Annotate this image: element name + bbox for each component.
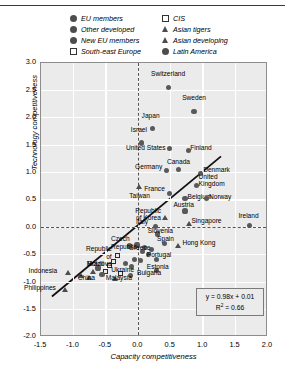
point-label-singapore: Singapore: [191, 217, 221, 224]
point-label-malaysia: Malaysia: [106, 274, 132, 281]
x-axis-tick: 1.0: [189, 341, 215, 348]
data-point-republic-of-korea: [162, 215, 168, 220]
square-marker-icon: [70, 48, 77, 55]
point-label-indonesia: Indonesia: [29, 267, 58, 274]
x-axis-tick: -0.5: [92, 341, 118, 348]
square-marker-icon: [162, 15, 169, 22]
gridline-horizontal: [41, 172, 266, 173]
r-squared: R2 = 0.66: [199, 301, 261, 312]
legend-item-label: New EU members: [81, 37, 139, 44]
point-label-canada: Canada: [167, 158, 190, 165]
x-axis-tick: -1.0: [59, 341, 85, 348]
legend-item-label: South-east Europe: [81, 48, 141, 55]
data-point-united-states: [167, 146, 172, 151]
point-label-israel: Israel: [131, 126, 147, 133]
point-label-hong-kong: Hong Kong: [182, 239, 215, 246]
x-axis-tick: -1.5: [27, 341, 53, 348]
point-label-finland: Finland: [190, 144, 212, 151]
fit-equation: y = 0.98x + 0.01: [199, 292, 261, 301]
point-label-slovenia: Slovenia: [148, 227, 173, 234]
circle-marker-icon: [70, 37, 77, 44]
point-label-united-kingdom: United Kingdom: [199, 173, 225, 188]
gridline-horizontal: [41, 282, 266, 283]
point-label-norway: Norway: [209, 193, 231, 200]
x-axis-tick: 1.5: [222, 341, 248, 348]
legend-item-asian-tigers: Asian tigers: [162, 26, 262, 33]
point-label-united-states: United States: [126, 144, 166, 151]
y-axis-tick: -2.0: [10, 332, 36, 339]
point-label-sweden: Sweden: [182, 94, 206, 101]
point-label-japan: Japan: [142, 112, 160, 119]
y-axis-tick: 2.0: [10, 113, 36, 120]
point-label-taiwan: Taiwan: [129, 192, 150, 199]
point-label-bulgaria: Bulgaria: [137, 269, 161, 276]
x-axis-label: Capacity competitiveness: [40, 352, 267, 361]
data-point-taiwan: [136, 184, 142, 189]
y-axis-tick: 3.0: [10, 58, 36, 65]
legend-item-cis: CIS: [162, 15, 262, 22]
legend-item-label: Latin America: [173, 48, 217, 55]
point-label-portugal: Portugal: [147, 251, 172, 258]
gridline-vertical: [73, 63, 74, 335]
y-axis-tick: 2.5: [10, 86, 36, 93]
data-point-canada: [176, 167, 181, 172]
legend-item-eu-members: EU members: [70, 15, 162, 22]
gridline-vertical: [105, 63, 106, 335]
legend-item-new-eu-members: New EU members: [70, 37, 162, 44]
y-axis-tick: 0.5: [10, 195, 36, 202]
gridline-vertical: [170, 63, 171, 335]
y-axis-tick: -1.5: [10, 305, 36, 312]
data-point-indonesia: [65, 270, 71, 275]
legend-item-label: CIS: [173, 15, 185, 22]
point-label-austria: Austria: [173, 201, 194, 208]
data-point-switzerland: [166, 85, 171, 90]
data-point-japan: [150, 126, 155, 131]
legend-item-label: Asian developing: [173, 37, 228, 44]
y-axis-tick: 0.0: [10, 223, 36, 230]
y-axis-tick: 1.5: [10, 141, 36, 148]
y-axis-tick: 1.0: [10, 168, 36, 175]
circle-marker-icon: [70, 26, 77, 33]
data-point-republic-of-moldova: [115, 253, 120, 258]
point-label-spain: Spain: [157, 235, 174, 242]
data-point-austria: [182, 208, 187, 213]
data-point: [138, 258, 143, 263]
gridline-horizontal: [41, 199, 266, 200]
x-axis-tick: 2.0: [254, 341, 280, 348]
point-label-germany: Germany: [135, 163, 162, 170]
legend-item-other-developed: Other developed: [70, 26, 162, 33]
chart-legend: EU membersCISOther developedAsian tigers…: [70, 13, 270, 57]
y-axis-tick: -0.5: [10, 250, 36, 257]
y-axis-label: Technology competitiveness: [30, 63, 39, 183]
point-label-china: China: [78, 274, 95, 281]
x-axis-tick: 0.0: [124, 341, 150, 348]
data-point-philippines: [62, 287, 68, 292]
tri-marker-icon: [162, 26, 169, 33]
data-point: [99, 272, 104, 277]
point-label-switzerland: Switzerland: [151, 70, 185, 77]
point-label-italy: Italy: [136, 218, 148, 225]
legend-item-latin-america: Latin America: [162, 48, 262, 55]
chart-figure: EU membersCISOther developedAsian tigers…: [0, 0, 285, 368]
tri-marker-icon: [162, 37, 169, 44]
data-point-hong-kong: [175, 243, 181, 248]
top-divider: [0, 5, 285, 6]
legend-item-asian-developing: Asian developing: [162, 37, 262, 44]
x-axis-tick: 0.5: [157, 341, 183, 348]
y-axis-tick: -1.0: [10, 278, 36, 285]
legend-item-label: Other developed: [81, 26, 134, 33]
data-point: [132, 257, 137, 262]
data-point-sweden: [191, 109, 196, 114]
gridline-horizontal: [41, 90, 266, 91]
circle-marker-icon: [162, 48, 169, 55]
point-label-ireland: Ireland: [238, 212, 258, 219]
regression-equation-box: y = 0.98x + 0.01 R2 = 0.66: [196, 288, 264, 316]
point-label-brazil: Brazil: [87, 260, 104, 267]
point-label-czech-republic: Czech Republic: [111, 235, 137, 250]
legend-item-label: EU members: [81, 15, 123, 22]
legend-item-label: Asian tigers: [173, 26, 211, 33]
circle-marker-icon: [70, 15, 77, 22]
data-point-france: [167, 191, 172, 196]
legend-item-south-east-europe: South-east Europe: [70, 48, 162, 55]
